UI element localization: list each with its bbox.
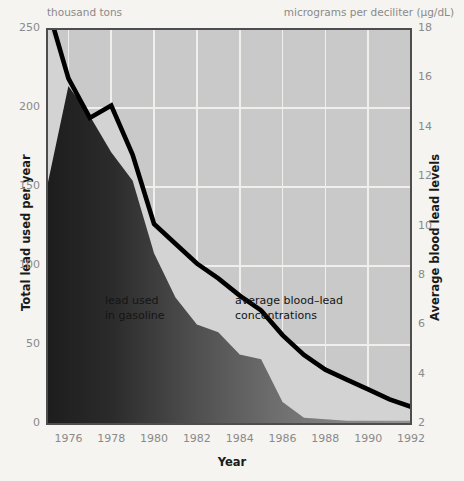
chart-container: thousand tons micrograms per deciliter (…	[0, 0, 464, 481]
plot-svg	[0, 0, 464, 481]
annotation-lead-in-gasoline: lead used in gasoline	[105, 294, 165, 324]
annotation-blood-lead: average blood–lead concentrations	[235, 294, 343, 324]
